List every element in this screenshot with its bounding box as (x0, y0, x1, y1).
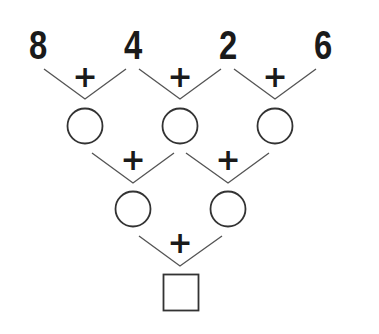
plus-sign-row1-2: + (165, 62, 195, 92)
top-number-1: 8 (22, 25, 55, 65)
plus-sign-row2-1: + (118, 145, 148, 175)
plus-sign-row2-2: + (213, 145, 243, 175)
plus-sign-row1-1: + (70, 62, 100, 92)
plus-sign-row1-3: + (260, 62, 290, 92)
blank-circle-row1-1[interactable] (68, 109, 103, 144)
blank-circle-row1-2[interactable] (163, 109, 198, 144)
answer-box[interactable] (164, 275, 199, 311)
blank-circle-row1-3[interactable] (258, 109, 293, 144)
top-number-4: 6 (307, 25, 340, 65)
top-number-2: 4 (117, 25, 150, 65)
plus-sign-row3-1: + (165, 228, 195, 258)
blank-circle-row2-2[interactable] (211, 192, 246, 227)
blank-circle-row2-1[interactable] (116, 192, 151, 227)
top-number-3: 2 (212, 25, 245, 65)
addition-pyramid-diagram: 8 4 2 6 + + + + + + (0, 0, 379, 334)
